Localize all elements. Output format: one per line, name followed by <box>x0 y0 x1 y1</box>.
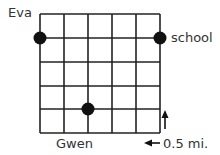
grid-map <box>0 0 220 155</box>
grid <box>40 14 160 133</box>
vertical-scale-arrow-icon <box>162 110 169 129</box>
gwen-label: Gwen <box>56 137 93 150</box>
horizontal-scale-arrow-icon <box>144 140 160 147</box>
school-label: school <box>171 31 213 44</box>
gwen-point <box>82 103 95 116</box>
scale-label: 0.5 mi. <box>163 137 208 150</box>
eva-label: Eva <box>8 6 32 19</box>
eva-point <box>34 32 47 45</box>
school-point <box>154 32 167 45</box>
